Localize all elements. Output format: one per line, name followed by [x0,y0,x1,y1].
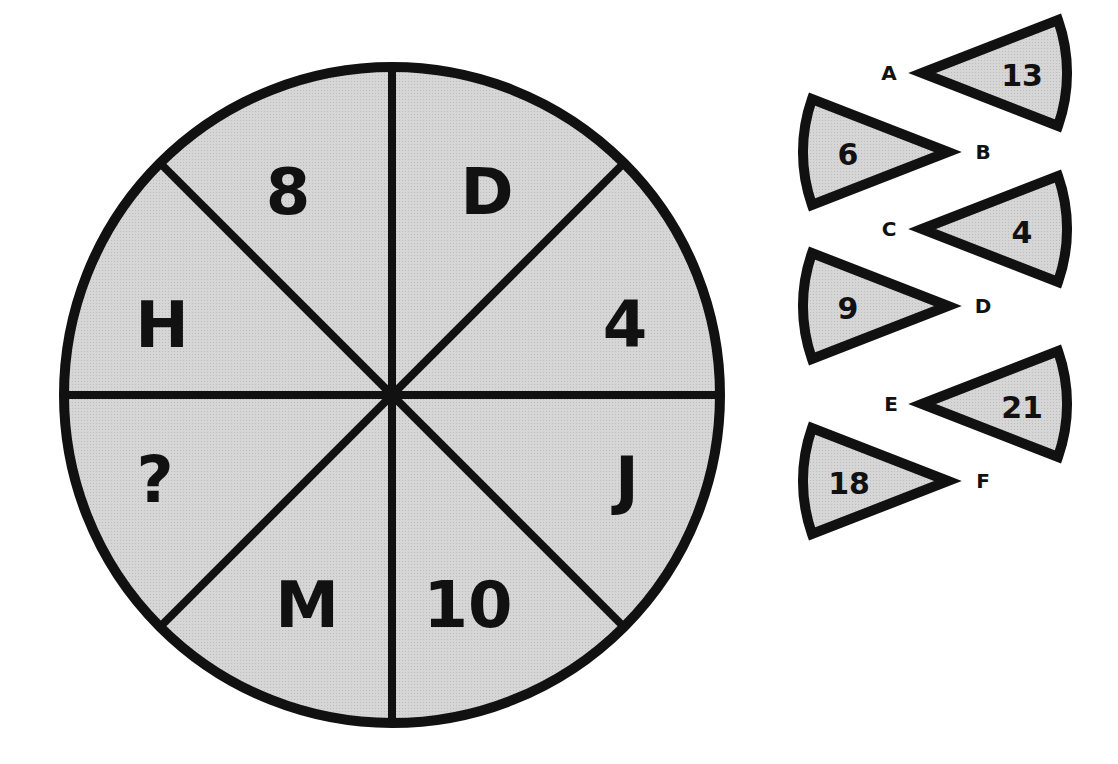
option-a-value: 13 [1001,58,1043,93]
wheel-spokes [67,70,717,720]
option-b-value: 6 [838,137,859,172]
segment-bottom-left: M [275,568,339,642]
segment-top-right: D [460,155,513,229]
segment-left-upper: H [135,288,189,362]
puzzle-canvas: 8 D 4 J 10 M ? H 13 A 6 B 4 C 9 D 21 [0,0,1118,764]
option-b-label: B [975,140,990,164]
wedge-right-shape [803,253,948,359]
wedge-left-shape [922,20,1067,126]
option-a[interactable]: 13 A [881,20,1067,126]
wedge-left-shape [922,176,1067,282]
segment-top-left: 8 [266,155,311,229]
segment-left-lower-unknown: ? [136,443,173,517]
option-f-value: 18 [828,466,870,501]
option-e[interactable]: 21 E [884,351,1067,457]
option-a-label: A [881,61,897,85]
option-f[interactable]: 18 F [803,428,990,534]
option-c[interactable]: 4 C [882,176,1067,282]
option-e-label: E [884,392,898,416]
wedge-left-shape [922,351,1067,457]
wedge-right-shape [803,99,948,205]
option-d-value: 9 [838,291,859,326]
option-c-value: 4 [1012,215,1033,250]
wedge-right-shape [803,428,948,534]
segment-right-lower: J [611,443,639,517]
segment-bottom-right: 10 [423,568,512,642]
option-c-label: C [882,217,897,241]
number-wheel: 8 D 4 J 10 M ? H [64,67,720,723]
option-b[interactable]: 6 B [803,99,991,205]
segment-right-upper: 4 [603,288,648,362]
option-d[interactable]: 9 D [803,253,991,359]
option-e-value: 21 [1001,390,1043,425]
option-f-label: F [976,469,990,493]
option-d-label: D [975,294,992,318]
